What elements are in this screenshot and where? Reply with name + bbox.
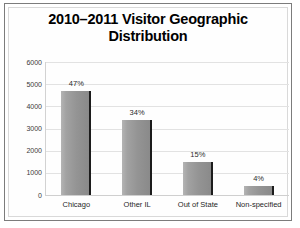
y-axis-tick-label: 4000: [8, 103, 42, 110]
chart-title-line-2: Distribution: [5, 28, 291, 45]
bar-value-label: 34%: [115, 109, 159, 117]
chart-frame: 2010–2011 Visitor Geographic Distributio…: [4, 3, 292, 221]
bar: [183, 162, 213, 195]
bar-slot: 4%: [228, 62, 289, 195]
chart-title-line-1: 2010–2011 Visitor Geographic: [5, 11, 291, 28]
y-axis-tick-label: 1000: [8, 169, 42, 176]
x-axis-category-label: Chicago: [45, 200, 107, 209]
x-axis-category-label: Other IL: [106, 200, 168, 209]
plot-area: 47%34%15%4%: [46, 62, 289, 195]
bar: [122, 120, 152, 195]
y-axis-tick-label: 0: [8, 192, 42, 199]
bar-value-label: 15%: [176, 151, 220, 159]
bar-slot: 15%: [168, 62, 229, 195]
y-axis-tick-label: 2000: [8, 147, 42, 154]
bar: [244, 186, 274, 195]
gridline: [46, 195, 289, 196]
y-axis-tick-label: 5000: [8, 81, 42, 88]
bar: [61, 91, 91, 195]
x-axis-category-labels: ChicagoOther ILOut of StateNon-specified: [46, 200, 289, 214]
bar-value-label: 47%: [54, 80, 98, 88]
bar-value-label: 4%: [237, 175, 281, 183]
x-axis-category-label: Out of State: [167, 200, 229, 209]
chart-title: 2010–2011 Visitor Geographic Distributio…: [5, 11, 291, 45]
bar-slot: 47%: [46, 62, 107, 195]
x-axis-category-label: Non-specified: [228, 200, 290, 209]
bar-slot: 34%: [107, 62, 168, 195]
y-axis-tick-label: 6000: [8, 59, 42, 66]
y-axis-tick-label: 3000: [8, 125, 42, 132]
y-axis-tick-labels: 6000500040003000200010000: [5, 62, 42, 195]
